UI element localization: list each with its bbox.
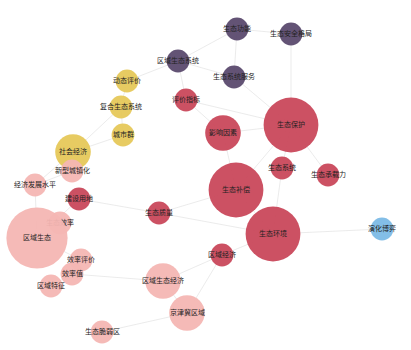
node-label: 生态保护 bbox=[277, 120, 305, 129]
node-label: 复合生态系统 bbox=[100, 102, 142, 111]
node-n16[interactable]: 生态质量 bbox=[145, 202, 173, 225]
node-n4[interactable]: 生态系统服务 bbox=[213, 66, 255, 89]
node-n13[interactable]: 生态承载力 bbox=[311, 164, 346, 187]
keyword-network-graph: 生态功能生态安全格局区域生态系统生态系统服务动态评价复合生态系统城市群社会经济评… bbox=[0, 0, 411, 350]
node-label: 新型城镇化 bbox=[55, 166, 90, 175]
node-n15[interactable]: 生态环境 bbox=[246, 207, 301, 262]
node-label: 生态功能 bbox=[223, 24, 251, 33]
node-label: 生态承载力 bbox=[311, 170, 346, 179]
node-n25[interactable]: 区域特征 bbox=[37, 275, 65, 298]
node-label: 生态安全格局 bbox=[270, 29, 312, 38]
node-layer: 生态功能生态安全格局区域生态系统生态系统服务动态评价复合生态系统城市群社会经济评… bbox=[6, 18, 396, 344]
node-label: 生态环境 bbox=[259, 229, 287, 238]
node-label: 区域生态 bbox=[23, 233, 51, 242]
node-n17[interactable]: 区域经济 bbox=[208, 244, 236, 267]
node-label: 生态系统服务 bbox=[213, 72, 255, 81]
node-n14[interactable]: 生态补偿 bbox=[209, 163, 264, 218]
node-label: 区域生态经济 bbox=[142, 276, 184, 285]
node-n27[interactable]: 京津冀区域 bbox=[169, 295, 205, 331]
node-n12[interactable]: 生态系统 bbox=[268, 157, 296, 180]
node-label: 京津冀区域 bbox=[170, 308, 205, 317]
node-n28[interactable]: 生态脆弱区 bbox=[85, 321, 120, 344]
node-label: 社会经济 bbox=[59, 147, 87, 156]
node-label: 建设用地 bbox=[65, 194, 93, 203]
node-n29[interactable]: 演化博弈 bbox=[368, 218, 396, 241]
node-n20[interactable]: 经济发展水平 bbox=[14, 174, 56, 197]
node-n7[interactable]: 城市群 bbox=[112, 124, 135, 147]
node-n11[interactable]: 生态保护 bbox=[264, 98, 319, 153]
node-n2[interactable]: 生态安全格局 bbox=[270, 23, 312, 46]
node-label: 生态质量 bbox=[145, 208, 173, 217]
node-n1[interactable]: 生态功能 bbox=[223, 18, 251, 41]
node-n5[interactable]: 动态评价 bbox=[113, 70, 141, 93]
node-label: 动态评价 bbox=[113, 76, 141, 85]
node-label: 区域生态系统 bbox=[157, 56, 199, 65]
node-n22[interactable]: 区域生态 bbox=[6, 207, 67, 268]
node-n18[interactable]: 建设用地 bbox=[65, 188, 93, 211]
node-label: 影响因素 bbox=[209, 128, 237, 137]
node-n26[interactable]: 区域生态经济 bbox=[142, 263, 184, 299]
node-n9[interactable]: 评价指标 bbox=[172, 89, 200, 112]
node-label: 效率值 bbox=[62, 269, 83, 278]
node-label: 经济发展水平 bbox=[14, 180, 56, 189]
node-n10[interactable]: 影响因素 bbox=[205, 115, 241, 151]
node-label: 生态系统 bbox=[268, 163, 296, 172]
node-label: 城市群 bbox=[113, 130, 134, 139]
node-label: 评价指标 bbox=[172, 95, 200, 104]
node-label: 区域特征 bbox=[37, 281, 65, 290]
node-label: 生态补偿 bbox=[222, 185, 250, 194]
node-label: 生态脆弱区 bbox=[85, 327, 120, 336]
node-n6[interactable]: 复合生态系统 bbox=[100, 96, 142, 119]
node-label: 演化博弈 bbox=[368, 224, 396, 233]
node-label: 区域经济 bbox=[208, 250, 236, 259]
